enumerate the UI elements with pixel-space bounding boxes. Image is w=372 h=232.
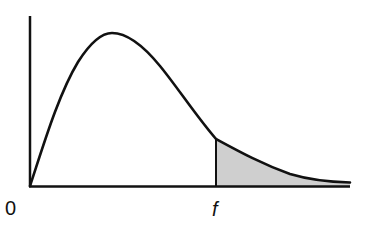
critical-value-label: f: [212, 198, 220, 220]
density-diagram: 0 f: [0, 0, 372, 232]
density-curve: [30, 33, 350, 186]
origin-label: 0: [5, 197, 16, 219]
shaded-tail-area: [216, 139, 350, 187]
